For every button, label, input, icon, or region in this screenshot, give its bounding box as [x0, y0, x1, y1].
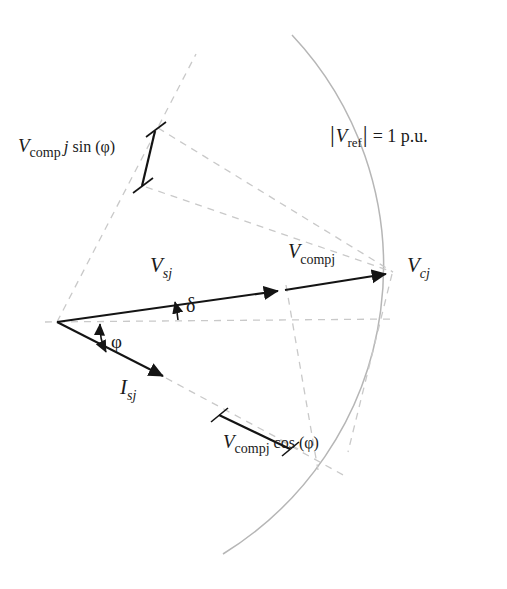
label-vcomp-sin-sub: comp	[30, 145, 61, 160]
label-vcomp-cos-tail: cos (φ)	[274, 434, 319, 452]
vectors-group	[57, 274, 386, 376]
label-vcomp-sin-tail: sin (φ)	[72, 138, 115, 156]
label-angle-phi: φ	[111, 331, 122, 352]
vcj-drop-line	[348, 274, 392, 452]
label-vcompj-sub: compj	[300, 252, 335, 267]
label-vref-sub: ref	[347, 135, 362, 150]
label-vref-magnitude: |Vref|= 1 p.u.	[330, 121, 428, 150]
dimension-tick-sin-top	[146, 122, 166, 137]
label-vcj: Vcj	[407, 253, 430, 281]
label-isj: Isj	[119, 375, 136, 403]
label-vref-bar-left: |	[330, 121, 335, 147]
label-vcj-sub: cj	[420, 266, 430, 281]
dimension-tick-cos-left	[211, 408, 228, 422]
dimension-lines-group	[133, 122, 299, 456]
upper-parallel-line-2	[146, 187, 393, 272]
label-vcomp-sin-mid: j	[62, 137, 69, 156]
vector-isj	[57, 322, 163, 376]
dimension-line-vcomp-sin	[142, 131, 155, 186]
label-vref-bar-right: |	[363, 121, 368, 147]
label-vsj-sub: sj	[163, 266, 172, 281]
horizontal-reference-axis	[45, 319, 395, 322]
label-vsj: Vsj	[150, 253, 172, 281]
phasor-diagram-figure: Vcompjsin (φ) |Vref|= 1 p.u. Vsj Vcompj …	[0, 0, 507, 589]
label-isj-sub: sj	[127, 388, 136, 403]
upper-construction-ray	[57, 54, 196, 322]
label-vcomp-sin-phi: Vcompjsin (φ)	[18, 135, 115, 160]
label-vcomp-cos-sub: compj	[235, 441, 270, 456]
angle-arc-phi	[100, 324, 106, 352]
phasor-diagram-canvas: Vcompjsin (φ) |Vref|= 1 p.u. Vsj Vcompj …	[0, 0, 507, 589]
construction-lines-group	[45, 54, 395, 476]
label-vref-tail: = 1 p.u.	[373, 126, 428, 146]
label-angle-delta: δ	[186, 294, 195, 316]
vector-vcompj	[285, 274, 386, 290]
vector-vsj	[57, 291, 278, 322]
